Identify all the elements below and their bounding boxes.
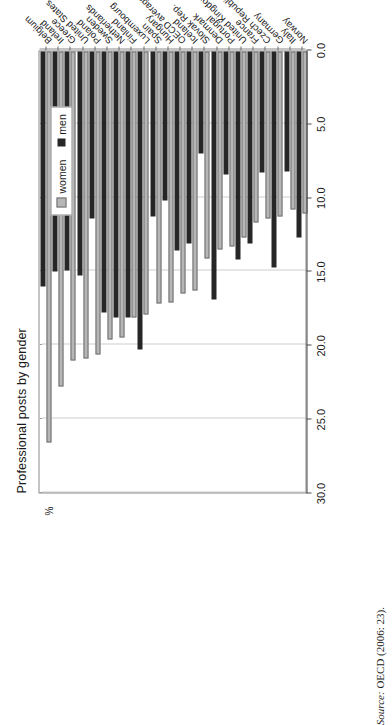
axis-tick: [306, 492, 311, 493]
axis-tick-label: 5.0: [314, 116, 326, 131]
bar-women: [119, 51, 124, 337]
plot-area: [38, 50, 306, 493]
bar-men: [284, 51, 289, 171]
bar-group: [136, 51, 148, 492]
bar-group: [124, 51, 136, 492]
bar-men: [259, 51, 264, 172]
bar-group: [246, 51, 258, 492]
bar-women: [168, 51, 173, 302]
chart-legend: women men: [50, 106, 72, 215]
bar-women: [192, 51, 197, 290]
bar-group: [39, 51, 51, 492]
bar-women: [265, 51, 270, 218]
axis-tick: [306, 271, 311, 272]
legend-item-men: men: [55, 114, 67, 146]
bar-men: [211, 51, 216, 299]
bar-women: [143, 51, 148, 314]
axis-tick-label: 0.0: [314, 42, 326, 57]
bar-men: [162, 51, 167, 200]
axis-tick-label: 15.0: [314, 261, 326, 282]
chart-title: Professional posts by gender: [14, 328, 28, 493]
bar-women: [95, 51, 100, 354]
bar-women: [107, 51, 112, 339]
source-note: Source: OECD (2006: 23).: [374, 607, 386, 725]
bar-men: [186, 51, 191, 243]
bar-women: [156, 51, 161, 304]
bar-women: [180, 51, 185, 293]
axis-tick: [306, 123, 311, 124]
legend-item-women: women: [55, 159, 67, 207]
bar-men: [235, 51, 240, 259]
bar-men: [113, 51, 118, 317]
bar-women: [58, 51, 63, 386]
bar-men: [89, 51, 94, 218]
bar-men: [174, 51, 179, 250]
bar-group: [234, 51, 246, 492]
axis-tick: [306, 344, 311, 345]
bar-women: [290, 51, 295, 209]
bar-men: [137, 51, 142, 349]
legend-label-men: men: [55, 114, 67, 134]
bar-women: [277, 51, 282, 216]
bar-group: [161, 51, 173, 492]
bar-men: [271, 51, 276, 267]
axis-tick: [306, 49, 311, 50]
bar-men: [223, 51, 228, 174]
bar-women: [83, 51, 88, 358]
bar-men: [150, 51, 155, 216]
bar-group: [197, 51, 209, 492]
bar-group: [149, 51, 161, 492]
bar-men: [77, 51, 82, 275]
bar-group: [258, 51, 270, 492]
bar-group: [185, 51, 197, 492]
legend-swatch-men: [57, 138, 65, 146]
source-text: OECD (2006: 23).: [374, 607, 386, 689]
bar-women: [217, 51, 222, 249]
bar-men: [101, 51, 106, 312]
bar-women: [241, 51, 246, 237]
bar-group: [173, 51, 185, 492]
axis-tick-label: 10.0: [314, 187, 326, 208]
source-prefix: Source:: [374, 691, 386, 725]
axis-tick-label: 20.0: [314, 335, 326, 356]
bar-men: [296, 51, 301, 237]
bar-group: [270, 51, 282, 492]
bar-men: [125, 51, 130, 317]
bar-group: [112, 51, 124, 492]
bar-men: [198, 51, 203, 153]
value-axis: 0.05.010.015.020.025.030.0: [306, 50, 307, 493]
bar-group: [76, 51, 88, 492]
bar-group: [222, 51, 234, 492]
bar-women: [204, 51, 209, 258]
axis-tick-label: 30.0: [314, 482, 326, 503]
axis-tick: [306, 418, 311, 419]
bar-men: [247, 51, 252, 243]
axis-unit-label: %: [43, 506, 54, 515]
bar-women: [229, 51, 234, 246]
axis-tick-label: 25.0: [314, 408, 326, 429]
bar-group: [295, 51, 307, 492]
bar-group: [100, 51, 112, 492]
legend-label-women: women: [55, 159, 67, 193]
bar-women: [131, 51, 136, 317]
bar-women: [253, 51, 258, 222]
bar-men: [40, 51, 45, 286]
axis-tick: [306, 197, 311, 198]
bar-group: [88, 51, 100, 492]
legend-swatch-women: [56, 197, 66, 207]
bar-group: [283, 51, 295, 492]
bar-group: [210, 51, 222, 492]
